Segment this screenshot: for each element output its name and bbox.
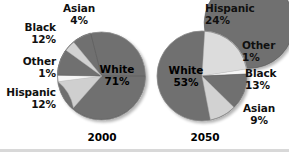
- bottom-divider: [0, 149, 289, 152]
- label-other-2050: Other 1%: [242, 40, 289, 63]
- label-other-2050-name: Other: [242, 39, 275, 51]
- label-asian-2000: Asian 4%: [50, 3, 108, 26]
- label-white-2050-name: White: [169, 64, 204, 76]
- label-hispanic-2000: Hispanic 12%: [0, 87, 56, 110]
- label-asian-2000-name: Asian: [63, 2, 95, 14]
- label-other-2000-pct: 1%: [0, 68, 56, 80]
- label-asian-2050-name: Asian: [243, 102, 275, 114]
- label-white-2000-name: White: [100, 63, 135, 75]
- label-white-2000: White 71%: [92, 63, 142, 87]
- label-white-2000-pct: 71%: [92, 75, 142, 87]
- label-white-2050-pct: 53%: [160, 76, 212, 88]
- label-black-2000-pct: 12%: [0, 34, 56, 46]
- label-other-2000: Other 1%: [0, 56, 56, 79]
- label-hispanic-2050-name: Hispanic: [205, 2, 255, 14]
- label-black-2050-name: Black: [245, 67, 276, 79]
- label-black-2000-name: Black: [25, 21, 56, 33]
- label-hispanic-2050-pct: 24%: [205, 15, 287, 27]
- label-hispanic-2000-pct: 12%: [0, 99, 56, 111]
- label-white-2050: White 53%: [160, 64, 212, 88]
- label-asian-2050-pct: 9%: [235, 115, 283, 127]
- two-pie-chart-figure: Asian 4% Black 12% Other 1% Hispanic 12%…: [0, 0, 289, 152]
- label-other-2050-pct: 1%: [242, 52, 289, 64]
- label-other-2000-name: Other: [23, 55, 56, 67]
- label-black-2050-pct: 13%: [245, 80, 289, 92]
- label-black-2000: Black 12%: [0, 22, 56, 45]
- label-asian-2000-pct: 4%: [50, 15, 108, 27]
- label-hispanic-2000-name: Hispanic: [6, 86, 56, 98]
- year-label-2000: 2000: [78, 131, 126, 143]
- label-asian-2050: Asian 9%: [235, 103, 283, 126]
- label-hispanic-2050: Hispanic 24%: [205, 3, 287, 26]
- label-black-2050: Black 13%: [245, 68, 289, 91]
- year-label-2050: 2050: [181, 131, 229, 143]
